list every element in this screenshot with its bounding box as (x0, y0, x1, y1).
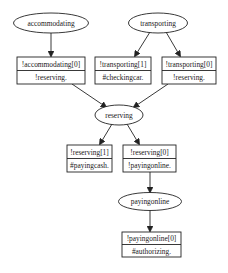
record-reserving-1: !reserving[1] #payingcash. (67, 145, 112, 172)
node-label: accommodating (27, 19, 75, 28)
record-transporting-0: !transporting[0] !reserving. (162, 57, 216, 84)
record-bottom: !reserving. (35, 73, 67, 82)
record-top: !reserving[1] (70, 148, 109, 157)
record-payingonline-0: !payingonline[0] #authorizing. (122, 232, 181, 257)
node-transporting: transporting (129, 13, 188, 33)
edge-transporting-tr1 (135, 32, 150, 56)
record-top: !payingonline[0] (127, 234, 177, 243)
record-accommodating-0: !accommodating[0] !reserving. (17, 57, 85, 84)
flow-diagram: accommodating transporting reserving pay… (0, 0, 228, 273)
node-label: payingonline (131, 197, 170, 206)
record-bottom: #payingcash. (70, 161, 109, 170)
node-payingonline: payingonline (119, 193, 182, 211)
edge-tr0-reserving (134, 84, 168, 107)
node-accommodating: accommodating (14, 13, 89, 33)
record-top: !transporting[1] (100, 60, 147, 69)
record-transporting-1: !transporting[1] #checkingcar. (95, 57, 151, 84)
node-reserving: reserving (95, 105, 143, 125)
record-reserving-0: !reserving[0] !payingonline. (123, 145, 176, 172)
record-top: !accommodating[0] (22, 60, 80, 69)
record-bottom: #checkingcar. (103, 73, 144, 82)
edge-reserving-res1 (100, 124, 112, 144)
record-top: !transporting[0] (166, 60, 213, 69)
record-bottom: #authorizing. (132, 247, 171, 256)
node-label: transporting (140, 19, 176, 28)
record-bottom: !reserving. (173, 73, 205, 82)
edge-reserving-res0 (127, 124, 139, 144)
record-top: !reserving[0] (130, 148, 169, 157)
node-label: reserving (105, 111, 133, 120)
edge-acc0-reserving (72, 84, 106, 107)
record-bottom: !payingonline. (128, 161, 171, 170)
edge-transporting-tr0 (166, 32, 180, 56)
